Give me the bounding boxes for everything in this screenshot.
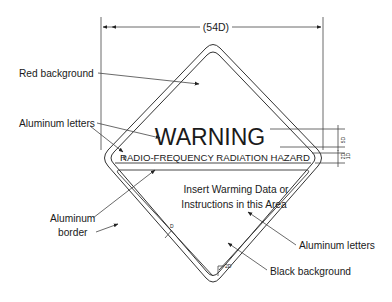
callout-aluminum-letters-bottom: Aluminum letters bbox=[299, 240, 375, 251]
rf-warning-sign-diagram: (54D) WARNING RADIO-FREQUENCY RADIATION … bbox=[0, 0, 392, 302]
callout-aluminum-border-line1: Aluminum bbox=[50, 213, 95, 224]
body-line-2: Instructions in this Area bbox=[181, 199, 287, 210]
left-corner-dim: D bbox=[123, 155, 127, 161]
leader-aluminum-letters-bottom bbox=[248, 212, 296, 245]
border-width-dim: D bbox=[170, 223, 174, 229]
leader-aluminum-letters-title bbox=[97, 123, 160, 138]
title-height-dim: 5D bbox=[340, 136, 346, 143]
callout-aluminum-border-line2: border bbox=[58, 227, 88, 238]
leader-aluminum-border-bottom bbox=[96, 224, 118, 232]
leader-aluminum-border-top bbox=[93, 170, 155, 218]
callout-red-background: Red background bbox=[19, 68, 94, 79]
border-width-tick bbox=[165, 230, 172, 238]
callout-black-background: Black background bbox=[270, 266, 351, 277]
body-line-1: Insert Warming Data or bbox=[184, 184, 290, 195]
inner-border bbox=[111, 52, 315, 276]
corner-radius-dim: 2D bbox=[225, 263, 232, 269]
gap-dim: 1D bbox=[345, 152, 351, 159]
sign-diamond bbox=[105, 45, 322, 283]
diagram-svg: (54D) WARNING RADIO-FREQUENCY RADIATION … bbox=[0, 0, 392, 302]
warning-title: WARNING bbox=[155, 124, 265, 150]
dimension-label: (54D) bbox=[203, 21, 229, 33]
callout-aluminum-letters-top: Aluminum letters bbox=[19, 118, 95, 129]
warning-subtitle: RADIO-FREQUENCY RADIATION HAZARD bbox=[120, 152, 310, 163]
